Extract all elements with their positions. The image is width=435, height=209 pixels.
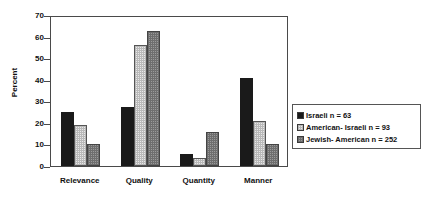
bar	[253, 121, 266, 166]
bar-chart: Percent 010203040506070 RelevanceQuality…	[0, 0, 435, 209]
legend-item: Jewish- American n = 252	[297, 133, 417, 145]
legend-item: American- Israeli n = 93	[297, 121, 417, 133]
bar	[121, 107, 134, 166]
bar	[74, 125, 87, 166]
legend-swatch-israeli	[297, 112, 304, 119]
bar	[240, 78, 253, 166]
y-axis-tick-label: 40	[4, 76, 44, 85]
legend: Israeli n = 63American- Israeli n = 93Je…	[292, 104, 421, 149]
legend-item: Israeli n = 63	[297, 109, 417, 121]
legend-item-label: American- Israeli n = 93	[306, 123, 390, 132]
legend-item-label: Jewish- American n = 252	[306, 135, 397, 144]
y-axis-tick-label: 70	[4, 11, 44, 20]
x-axis-category-label: Quantity	[169, 176, 229, 185]
y-axis-tick-label: 50	[4, 54, 44, 63]
bar	[87, 144, 100, 166]
legend-swatch-american-israeli	[297, 124, 304, 131]
bar	[180, 154, 193, 166]
legend-swatch-jewish-american	[297, 136, 304, 143]
y-axis-tick-mark	[44, 167, 50, 168]
bar	[61, 112, 74, 166]
bar	[193, 158, 206, 166]
x-axis-category-label: Manner	[229, 176, 289, 185]
legend-item-label: Israeli n = 63	[306, 111, 351, 120]
y-axis-tick-label: 30	[4, 97, 44, 106]
x-axis-category-label: Relevance	[50, 176, 110, 185]
y-axis-tick-label: 10	[4, 140, 44, 149]
bar	[134, 45, 147, 166]
y-axis-tick-label: 20	[4, 119, 44, 128]
y-axis-tick-label: 0	[4, 162, 44, 171]
plot-area	[50, 16, 288, 167]
bar	[266, 144, 279, 166]
bar	[147, 31, 160, 166]
x-axis-category-label: Quality	[110, 176, 170, 185]
y-axis-tick-label: 60	[4, 33, 44, 42]
bar	[206, 132, 219, 167]
